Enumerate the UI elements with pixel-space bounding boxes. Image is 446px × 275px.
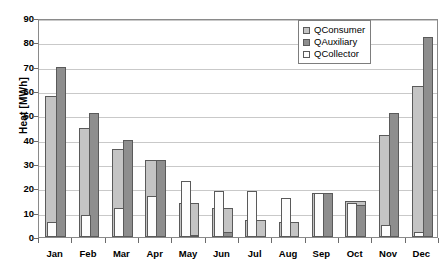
legend-swatch-qcollector <box>303 51 310 58</box>
bar-qcollector <box>414 232 424 237</box>
x-tick-label: Nov <box>379 248 397 259</box>
legend-label-qcollector: QCollector <box>314 49 359 59</box>
x-tick-mark <box>138 238 139 243</box>
y-tick-label: 60 <box>8 87 34 97</box>
y-tick-label: 30 <box>8 160 34 170</box>
bar-qcollector <box>381 225 391 237</box>
bar-qauxiliary <box>356 205 366 237</box>
bar-qcollector <box>147 196 157 237</box>
x-tick-mark <box>238 238 239 243</box>
bar-qcollector <box>281 198 291 237</box>
x-tick-label: Mar <box>113 248 130 259</box>
y-tick-label: 80 <box>8 39 34 49</box>
x-tick-label: Sep <box>313 248 330 259</box>
bar-qcollector <box>47 222 57 237</box>
bar-qcollector <box>314 193 324 237</box>
bar-qcollector <box>347 203 357 237</box>
y-tick-label: 40 <box>8 136 34 146</box>
x-tick-label: Dec <box>413 248 430 259</box>
x-tick-mark <box>171 238 172 243</box>
bar-qauxiliary <box>389 113 399 237</box>
bar-qcollector <box>181 181 191 237</box>
bar-qauxiliary <box>223 232 233 237</box>
x-tick-label: Jul <box>248 248 262 259</box>
x-tick-label: Jun <box>213 248 230 259</box>
gridline <box>39 93 437 94</box>
x-tick-mark <box>305 238 306 243</box>
legend-item-qauxiliary: QAuxiliary <box>303 36 365 48</box>
legend-item-qcollector: QCollector <box>303 48 365 60</box>
gridline <box>39 20 437 21</box>
x-tick-label: Jan <box>46 248 62 259</box>
legend-item-qconsumer: QConsumer <box>303 24 365 36</box>
y-tick-label: 0 <box>8 233 34 243</box>
x-tick-mark <box>405 238 406 243</box>
plot-area <box>38 19 438 238</box>
x-tick-label: Feb <box>80 248 97 259</box>
bar-qauxiliary <box>123 140 133 237</box>
y-tick-label: 20 <box>8 185 34 195</box>
x-tick-label: Aug <box>279 248 297 259</box>
bar-qauxiliary <box>189 235 199 237</box>
x-tick-mark <box>271 238 272 243</box>
bar-qauxiliary <box>89 113 99 237</box>
legend-label-qconsumer: QConsumer <box>314 25 365 35</box>
bar-qcollector <box>214 191 224 237</box>
bar-qcollector <box>81 215 91 237</box>
x-tick-mark <box>371 238 372 243</box>
legend-swatch-qconsumer <box>303 27 310 34</box>
gridline <box>39 69 437 70</box>
x-tick-label: Apr <box>146 248 162 259</box>
x-tick-label: May <box>179 248 197 259</box>
legend-label-qauxiliary: QAuxiliary <box>314 37 357 47</box>
x-tick-mark <box>338 238 339 243</box>
x-tick-mark <box>205 238 206 243</box>
bar-qauxiliary <box>56 67 66 237</box>
gridline <box>39 44 437 45</box>
bar-qcollector <box>114 208 124 237</box>
x-tick-mark <box>38 238 39 243</box>
y-tick-label: 70 <box>8 63 34 73</box>
y-tick-label: 90 <box>8 14 34 24</box>
y-tick-label: 10 <box>8 209 34 219</box>
x-tick-mark <box>438 238 439 243</box>
x-tick-mark <box>105 238 106 243</box>
x-tick-mark <box>71 238 72 243</box>
bar-qauxiliary <box>323 193 333 237</box>
chart-legend: QConsumer QAuxiliary QCollector <box>298 20 371 64</box>
y-tick-label: 50 <box>8 112 34 122</box>
legend-swatch-qauxiliary <box>303 39 310 46</box>
x-tick-label: Oct <box>347 248 363 259</box>
bar-qcollector <box>247 191 257 237</box>
bar-qauxiliary <box>423 37 433 237</box>
bar-chart: Heat [MWh] 0102030405060708090 JanFebMar… <box>0 0 446 275</box>
bar-qauxiliary <box>156 160 166 237</box>
